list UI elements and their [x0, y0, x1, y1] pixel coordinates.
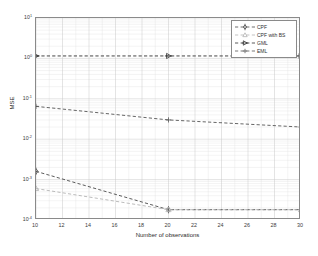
- y-axis-tick-labels: 10110010-110-210-310-4: [0, 17, 32, 219]
- legend-item-gml[interactable]: GML: [234, 39, 294, 47]
- x-tick-label: 26: [244, 222, 250, 228]
- x-tick-label: 10: [32, 222, 38, 228]
- y-tick-label: 10-3: [23, 175, 32, 182]
- legend-item-cpf-with-bs[interactable]: CPF with BS: [234, 31, 294, 39]
- series-marker-gml: [36, 53, 40, 58]
- y-tick-label: 10-1: [23, 94, 32, 101]
- series-marker-gml: [165, 53, 172, 58]
- series-marker-cpf-with-bs: [298, 207, 300, 212]
- series-marker-gml: [297, 53, 300, 58]
- x-tick-label: 24: [218, 222, 224, 228]
- legend-marker-icon: [234, 47, 256, 55]
- x-tick-label: 14: [85, 222, 91, 228]
- x-tick-label: 30: [297, 222, 303, 228]
- series-marker-cpf: [299, 206, 300, 213]
- legend-marker-icon: [234, 31, 256, 39]
- x-tick-label: 28: [271, 222, 277, 228]
- series-line-eml: [36, 106, 300, 127]
- y-tick-label: 101: [24, 14, 32, 21]
- legend-item-cpf[interactable]: CPF: [234, 23, 294, 31]
- series-line-cpf: [36, 171, 300, 209]
- legend-marker-icon: [234, 39, 256, 47]
- x-tick-label: 22: [191, 222, 197, 228]
- legend-item-label: EML: [256, 47, 267, 55]
- x-tick-label: 18: [138, 222, 144, 228]
- series-line-cpf-with-bs: [36, 189, 300, 210]
- legend-marker-icon: [234, 23, 256, 31]
- x-axis-tick-labels: 1012141618202224262830: [35, 222, 300, 232]
- series-marker-eml: [166, 117, 171, 122]
- series-marker-eml: [36, 104, 39, 109]
- legend-item-label: GML: [256, 39, 268, 47]
- series-marker-eml: [298, 124, 300, 129]
- legend-item-label: CPF with BS: [256, 31, 285, 39]
- figure-mse-vs-observations: MSE 10110010-110-210-310-4 1012141618202…: [0, 0, 318, 256]
- y-tick-label: 10-2: [23, 135, 32, 142]
- x-tick-label: 20: [165, 222, 171, 228]
- x-axis-label: Number of observations: [35, 232, 300, 238]
- y-tick-label: 100: [24, 54, 32, 61]
- legend-item-label: CPF: [256, 23, 267, 31]
- legend: CPFCPF with BSGMLEML: [231, 20, 297, 58]
- legend-item-eml[interactable]: EML: [234, 47, 294, 55]
- x-tick-label: 12: [59, 222, 65, 228]
- x-tick-label: 16: [112, 222, 118, 228]
- y-tick-label: 10-4: [23, 216, 32, 223]
